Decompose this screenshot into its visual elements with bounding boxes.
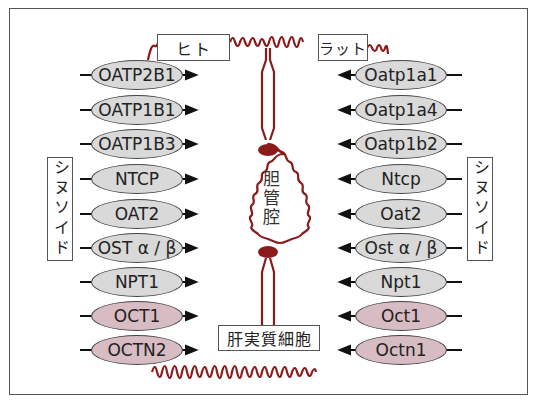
transporter-oatp1a4: Oatp1a4 — [355, 95, 447, 125]
sinusoid-label-left: シヌソイド — [47, 157, 73, 261]
junction-upper — [262, 48, 274, 140]
transporter-ost-alpha-beta-rat: Ost α / β — [355, 233, 447, 263]
transporter-oatp1a1: Oatp1a1 — [355, 60, 447, 90]
bile-canaliculus-label: 胆管腔 — [258, 170, 283, 227]
human-label: ヒト — [157, 34, 230, 61]
hepatocyte-label: 肝実質細胞 — [218, 325, 320, 351]
transporter-octn2: OCTN2 — [91, 335, 183, 365]
bottom-membrane — [152, 366, 316, 378]
top-membrane-right — [367, 45, 388, 54]
transporter-ost-alpha-beta: OST α / β — [91, 233, 183, 263]
top-membrane-mid — [230, 37, 303, 47]
transporter-octn1: Octn1 — [355, 335, 447, 365]
transporter-oatp2b1: OATP2B1 — [91, 60, 183, 90]
transporter-oat2: OAT2 — [91, 199, 183, 229]
transporter-oct1: OCT1 — [91, 301, 183, 331]
transporter-ntcp-rat: Ntcp — [355, 164, 447, 194]
sinusoid-label-right: シヌソイド — [467, 157, 493, 261]
transporter-oct1-rat: Oct1 — [355, 301, 447, 331]
transporter-ntcp: NTCP — [91, 164, 183, 194]
transporter-npt1: NPT1 — [91, 267, 183, 297]
transporter-npt1-rat: Npt1 — [355, 267, 447, 297]
junction-lower — [262, 258, 274, 326]
transporter-oatp1b3: OATP1B3 — [91, 129, 183, 159]
transporter-oatp1b1: OATP1B1 — [91, 95, 183, 125]
transporter-oatp1b2: Oatp1b2 — [355, 129, 447, 159]
transporter-oat2-rat: Oat2 — [355, 199, 447, 229]
rat-label: ラット — [318, 34, 368, 61]
